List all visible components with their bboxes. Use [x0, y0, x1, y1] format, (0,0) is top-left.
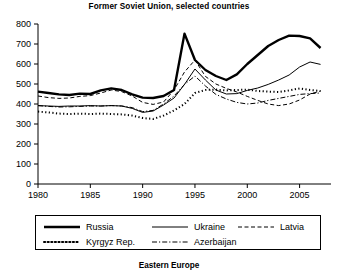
legend-label-ukraine: Ukraine	[194, 222, 225, 232]
legend: RussiaUkraineLatviaKyrgyz Rep.Azerbaijan	[36, 216, 321, 250]
series-line-russia	[38, 34, 321, 98]
y-tick-label: 300	[16, 119, 31, 129]
x-tick-label: 2000	[237, 190, 257, 200]
x-tick-label: 1980	[28, 190, 48, 200]
y-tick-group: 0100200300400500600700800	[16, 19, 38, 189]
line-chart-plot: 0100200300400500600700800 19801985199019…	[0, 0, 338, 258]
x-tick-label: 1995	[185, 190, 205, 200]
y-tick-label: 700	[16, 39, 31, 49]
data-series-group	[38, 34, 321, 119]
y-tick-label: 200	[16, 139, 31, 149]
y-tick-label: 0	[26, 179, 31, 189]
legend-label-russia: Russia	[86, 222, 114, 232]
x-tick-label: 2005	[290, 190, 310, 200]
y-axis: 0100200300400500600700800	[16, 19, 38, 189]
legend-border	[36, 216, 321, 250]
x-tick-group: 198019851990199520002005	[28, 184, 310, 200]
y-tick-label: 500	[16, 79, 31, 89]
x-tick-label: 1985	[80, 190, 100, 200]
y-tick-label: 400	[16, 99, 31, 109]
x-axis: 198019851990199520002005	[28, 184, 331, 200]
footer-section-title: Eastern Europe	[0, 261, 338, 270]
y-tick-label: 100	[16, 159, 31, 169]
y-tick-label: 600	[16, 59, 31, 69]
y-tick-label: 800	[16, 19, 31, 29]
legend-label-azerbaijan: Azerbaijan	[194, 237, 237, 247]
legend-label-kyrgyz-rep: Kyrgyz Rep.	[86, 237, 135, 247]
legend-entries: RussiaUkraineLatviaKyrgyz Rep.Azerbaijan	[44, 222, 304, 247]
legend-label-latvia: Latvia	[280, 222, 304, 232]
chart-figure: Former Soviet Union, selected countries …	[0, 0, 338, 271]
x-tick-label: 1990	[133, 190, 153, 200]
series-line-ukraine	[38, 62, 321, 112]
